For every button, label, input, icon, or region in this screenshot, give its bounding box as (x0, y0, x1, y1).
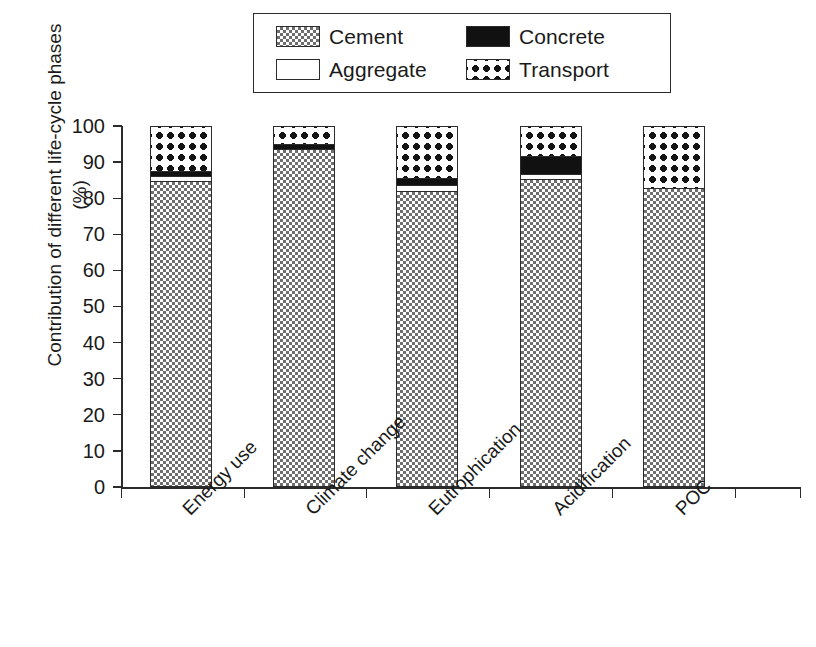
x-tick-3 (489, 488, 490, 498)
y-tick-60: 60 (113, 270, 122, 271)
y-tick-label-60: 60 (83, 260, 113, 280)
bar-segment-transport (274, 127, 334, 145)
chart-plot-area: Contribution of different life-cycle pha… (0, 0, 816, 647)
y-tick-30: 30 (113, 378, 122, 379)
y-tick-label-70: 70 (83, 224, 113, 244)
x-tick-1 (244, 488, 245, 498)
x-tick-4 (612, 488, 613, 498)
y-tick-50: 50 (113, 306, 122, 307)
y-tick-label-90: 90 (83, 152, 113, 172)
y-tick-40: 40 (113, 342, 122, 343)
y-tick-label-10: 10 (83, 441, 113, 461)
bar-acidification[interactable] (520, 126, 582, 487)
bar-segment-cement (397, 192, 457, 486)
bar-climate-change[interactable] (273, 126, 335, 487)
y-tick-label-20: 20 (83, 405, 113, 425)
x-tick-2 (366, 488, 367, 498)
bar-segment-cement (644, 189, 704, 486)
y-tick-70: 70 (113, 234, 122, 235)
bar-segment-transport (521, 127, 581, 157)
bar-energy-use[interactable] (150, 126, 212, 487)
bar-segment-transport (151, 127, 211, 172)
bar-segment-transport (397, 127, 457, 179)
y-tick-90: 90 (113, 161, 122, 162)
x-tick-6 (800, 488, 801, 498)
bar-segment-transport (644, 127, 704, 189)
bar-segment-cement (521, 180, 581, 486)
y-tick-label-100: 100 (72, 116, 113, 136)
y-tick-20: 20 (113, 414, 122, 415)
x-tick-5 (735, 488, 736, 498)
bar-segment-concrete (521, 157, 581, 175)
y-tick-label-30: 30 (83, 369, 113, 389)
y-tick-10: 10 (113, 450, 122, 451)
y-tick-label-0: 0 (94, 477, 113, 497)
y-tick-label-50: 50 (83, 296, 113, 316)
bar-segment-cement (274, 150, 334, 486)
y-tick-100: 100 (113, 125, 122, 126)
bar-eutrophication[interactable] (396, 126, 458, 487)
bar-segment-cement (151, 182, 211, 486)
y-tick-80: 80 (113, 198, 122, 199)
x-tick-0 (121, 488, 122, 498)
y-tick-label-40: 40 (83, 333, 113, 353)
bar-poc[interactable] (643, 126, 705, 487)
y-tick-label-80: 80 (83, 188, 113, 208)
